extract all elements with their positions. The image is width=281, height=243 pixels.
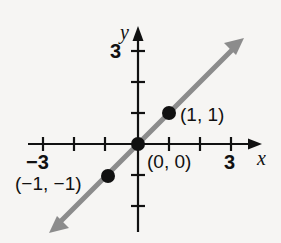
- point-label-0-0: (0, 0): [147, 152, 191, 171]
- graph-canvas: [0, 0, 281, 243]
- x-tick-label-neg3: −3: [26, 152, 49, 172]
- data-point-0-0: [131, 137, 145, 151]
- x-tick-label-3: 3: [224, 152, 235, 172]
- line-y-equals-x: [49, 38, 244, 233]
- data-point-neg1-neg1: [101, 169, 115, 183]
- point-label-neg1-neg1: (−1, −1): [15, 174, 82, 193]
- data-point-1-1: [162, 106, 176, 120]
- point-label-1-1: (1, 1): [180, 105, 224, 124]
- x-axis-label: x: [257, 148, 266, 168]
- y-tick-label-3: 3: [110, 41, 121, 61]
- y-axis-label: y: [120, 22, 129, 42]
- y-axis: [131, 26, 145, 232]
- coordinate-plane-figure: y x 3 −3 3 (1, 1) (0, 0) (−1, −1): [0, 0, 281, 243]
